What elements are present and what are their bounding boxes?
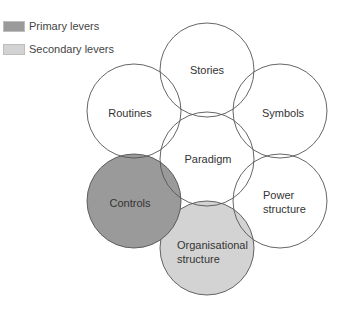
label-symbols: Symbols [262,107,305,119]
label-routines: Routines [108,107,152,119]
label-power-structure-line2: structure [263,203,306,215]
label-stories: Stories [190,64,225,76]
label-controls: Controls [110,197,151,209]
label-organisational-structure-line1: Organisational [177,239,248,251]
label-paradigm: Paradigm [184,153,231,165]
cultural-web-diagram: Stories Routines Symbols Paradigm Contro… [0,0,341,311]
label-power-structure-line1: Power [263,189,295,201]
label-organisational-structure-line2: structure [177,253,220,265]
